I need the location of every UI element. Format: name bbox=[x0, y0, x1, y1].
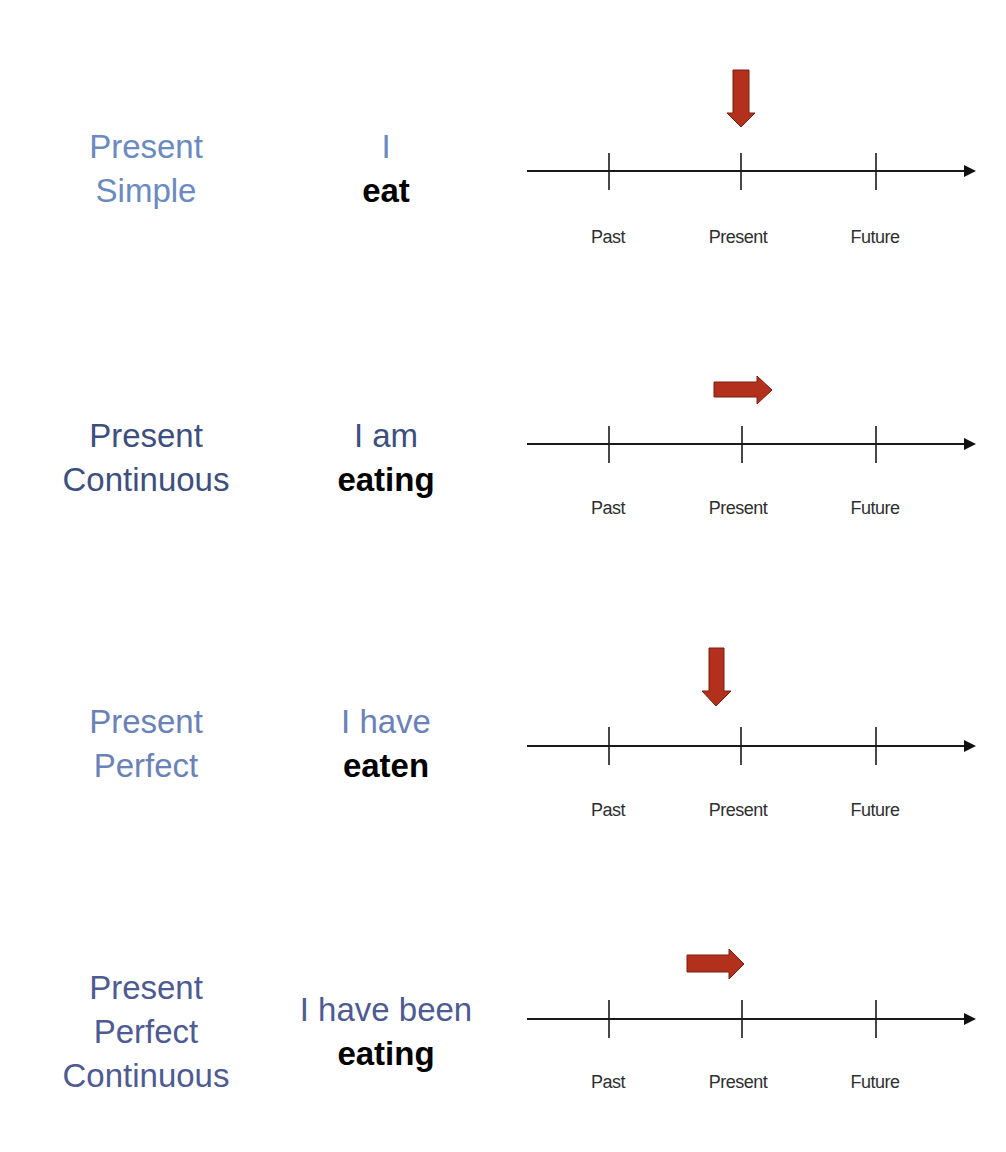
timeline-label-past: Past bbox=[558, 227, 658, 248]
timeline bbox=[0, 575, 1006, 815]
timeline-label-future: Future bbox=[825, 800, 925, 821]
timeline-arrowhead-icon bbox=[964, 438, 976, 450]
red-down-arrow-icon bbox=[727, 70, 755, 127]
timeline-label-present: Present bbox=[688, 227, 788, 248]
timeline-label-past: Past bbox=[558, 800, 658, 821]
timeline bbox=[0, 848, 1006, 1088]
timeline-label-present: Present bbox=[688, 1072, 788, 1093]
timeline-label-past: Past bbox=[558, 498, 658, 519]
timeline-label-future: Future bbox=[825, 498, 925, 519]
red-down-arrow-icon bbox=[702, 648, 731, 706]
timeline-arrowhead-icon bbox=[964, 1013, 976, 1025]
timeline-label-past: Past bbox=[558, 1072, 658, 1093]
timeline bbox=[0, 0, 1006, 240]
timeline-arrowhead-icon bbox=[964, 165, 976, 177]
red-right-arrow-icon bbox=[714, 376, 772, 404]
timeline-label-present: Present bbox=[688, 800, 788, 821]
timeline-label-future: Future bbox=[825, 1072, 925, 1093]
timeline bbox=[0, 273, 1006, 513]
red-right-arrow-icon bbox=[687, 949, 744, 979]
timeline-label-present: Present bbox=[688, 498, 788, 519]
timeline-label-future: Future bbox=[825, 227, 925, 248]
timeline-arrowhead-icon bbox=[964, 740, 976, 752]
